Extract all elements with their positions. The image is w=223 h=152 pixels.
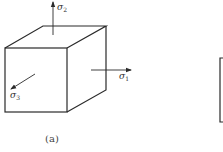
sigma2-label: σ2 <box>57 2 67 13</box>
sigma3-arrow <box>11 74 35 89</box>
cube-top-face <box>5 26 106 48</box>
sigma3-label: σ3 <box>10 90 20 101</box>
caption-a: (a) <box>45 133 59 144</box>
panel-b <box>220 58 223 122</box>
stress-diagram: σ2 σ1 σ3 (a) <box>0 0 223 152</box>
panel-a: σ2 σ1 σ3 (a) <box>5 2 131 144</box>
cube-right-face <box>67 26 106 112</box>
cube-front-face <box>5 48 67 112</box>
cube <box>5 26 106 112</box>
sigma1-label: σ1 <box>119 71 129 82</box>
figure: σ2 σ1 σ3 (a) <box>0 0 223 152</box>
partial-box <box>220 58 223 122</box>
